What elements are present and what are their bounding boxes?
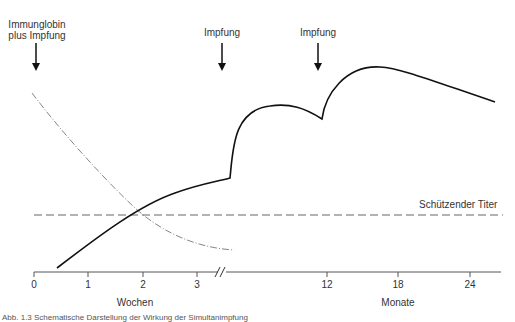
- annotation-line-1: Immunglobin: [8, 19, 65, 30]
- x-axis: [34, 272, 501, 277]
- annotation-vaccination-label-2: Impfung: [300, 27, 336, 38]
- tick-label: 2: [140, 279, 146, 290]
- x-axis-title-months: Monate: [381, 297, 414, 308]
- annotation-line-2: plus Impfung: [8, 30, 65, 41]
- tick-label: 3: [194, 279, 200, 290]
- passive-antibody-curve: [32, 93, 234, 250]
- arrow-down-icon: [314, 43, 322, 71]
- arrow-down-icon: [218, 43, 226, 71]
- annotation-immunoglobin-label: Immunglobin plus Impfung: [8, 19, 65, 41]
- tick-label: 24: [464, 279, 475, 290]
- annotation-vaccination-label-1: Impfung: [204, 27, 240, 38]
- active-antibody-curve: [57, 67, 495, 268]
- tick-label: 0: [31, 279, 37, 290]
- tick-label: 18: [392, 279, 403, 290]
- arrow-down-icon: [32, 43, 40, 71]
- protective-titer-label: Schützender Titer: [419, 199, 497, 210]
- figure-caption: Abb. 1.3 Schematische Darstellung der Wi…: [2, 313, 248, 322]
- x-axis-title-weeks: Wochen: [117, 297, 154, 308]
- tick-label: 12: [321, 279, 332, 290]
- tick-label: 1: [85, 279, 91, 290]
